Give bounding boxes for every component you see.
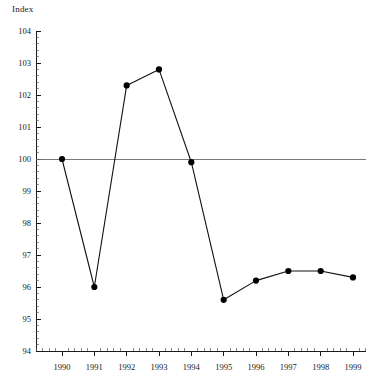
- y-axis-tick-label: 94: [23, 346, 32, 356]
- x-axis-tick-label: 1999: [345, 362, 362, 372]
- series-line-index: [62, 69, 353, 299]
- x-axis-tick-label: 1998: [312, 362, 329, 372]
- data-point-marker: [91, 284, 97, 290]
- x-axis-tick-label: 1996: [248, 362, 265, 372]
- y-axis-tick-label: 99: [23, 186, 32, 196]
- x-axis-tick-label: 1995: [215, 362, 232, 372]
- chart-container: Index 9495969798991001011021031041990199…: [0, 0, 371, 378]
- x-axis-tick-label: 1991: [86, 362, 103, 372]
- data-point-marker: [188, 159, 194, 165]
- x-axis-tick-label: 1993: [151, 362, 168, 372]
- data-point-marker: [285, 268, 291, 274]
- y-axis-tick-label: 96: [23, 282, 32, 292]
- y-axis-tick-label: 102: [18, 90, 31, 100]
- y-axis-tick-label: 101: [18, 122, 31, 132]
- y-axis-tick-label: 103: [18, 58, 31, 68]
- x-axis-tick-label: 1992: [118, 362, 135, 372]
- data-point-marker: [59, 156, 65, 162]
- y-axis-tick-label: 98: [23, 218, 32, 228]
- data-point-marker: [156, 66, 162, 72]
- data-point-marker: [253, 278, 259, 284]
- x-axis-tick-label: 1990: [54, 362, 71, 372]
- x-axis-tick-label: 1997: [280, 362, 297, 372]
- data-point-marker: [350, 274, 356, 280]
- x-axis-tick-label: 1994: [183, 362, 201, 372]
- y-axis-tick-label: 100: [18, 154, 31, 164]
- y-axis-tick-label: 95: [23, 314, 32, 324]
- y-axis-tick-label: 104: [18, 26, 32, 36]
- y-axis-tick-label: 97: [23, 250, 32, 260]
- data-point-marker: [221, 297, 227, 303]
- line-chart-plot: 9495969798991001011021031041990199119921…: [0, 0, 371, 378]
- data-point-marker: [124, 82, 130, 88]
- data-point-marker: [318, 268, 324, 274]
